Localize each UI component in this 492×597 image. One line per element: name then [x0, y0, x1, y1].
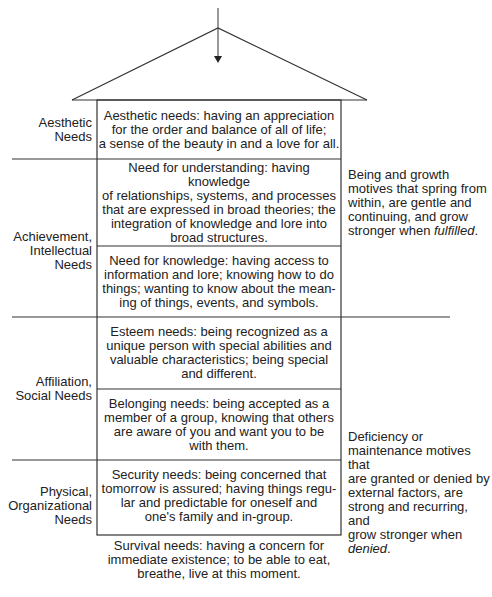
text-line: one's family and in-group.: [102, 510, 337, 524]
text-line: integration of knowledge and lore into: [97, 217, 341, 231]
need-survival: Survival needs: having a concern forimme…: [97, 532, 341, 587]
text-line: a sense of the beauty in and a love for …: [99, 137, 340, 151]
text-line: grow stronger when: [348, 528, 492, 542]
label-line: Organizational: [8, 499, 92, 513]
text-line: member of a group, knowing that others: [104, 411, 334, 425]
punct: .: [387, 541, 391, 556]
need-understanding: Need for understanding: having knowledge…: [97, 159, 341, 246]
text-line: Security needs: being concerned that: [102, 468, 337, 482]
down-arrow-icon: [214, 56, 222, 63]
text-line: within, are gentle and: [348, 196, 492, 210]
text-line: ing of things, events, and symbols.: [102, 296, 335, 310]
punct: .: [474, 223, 478, 238]
group-label-aesthetic: Aesthetic Needs: [39, 116, 92, 144]
text-line: Survival needs: having a concern for: [108, 539, 331, 553]
label-line: Needs: [13, 258, 92, 272]
label-line: Aesthetic: [39, 116, 92, 130]
need-belonging: Belonging needs: being accepted as amemb…: [97, 389, 341, 460]
need-security: Security needs: being concerned thattomo…: [97, 460, 341, 532]
emphasis-denied: denied: [348, 541, 387, 556]
text-line: Need for understanding: having knowledge: [97, 161, 341, 189]
text-line: lar and predictable for oneself and: [102, 496, 337, 510]
text-line: external factors, are: [348, 486, 492, 500]
label-line: Physical,: [8, 485, 92, 499]
need-knowledge: Need for knowledge: having access toinfo…: [97, 246, 341, 317]
need-esteem: Esteem needs: being recognized as auniqu…: [97, 317, 341, 389]
text-line: with them.: [104, 439, 334, 453]
text-line: Belonging needs: being accepted as a: [104, 397, 334, 411]
label-line: Achievement,: [13, 230, 92, 244]
growth-motives-note: Being and growth motives that spring fro…: [348, 168, 492, 238]
text-line: continuing, and grow: [348, 210, 492, 224]
text-line: Deficiency or: [348, 430, 492, 444]
label-line: Needs: [8, 513, 92, 527]
group-label-physical: Physical, Organizational Needs: [8, 485, 92, 527]
group-label-affiliation: Affiliation, Social Needs: [15, 375, 92, 403]
text-line: Aesthetic needs: having an appreciation: [99, 109, 340, 123]
text-line: stronger when: [348, 223, 434, 238]
text-line: broad structures.: [97, 231, 341, 245]
label-line: Social Needs: [15, 389, 92, 403]
text-line: are granted or denied by: [348, 472, 492, 486]
roof: [72, 28, 367, 100]
need-aesthetic: Aesthetic needs: having an appreciationf…: [97, 100, 341, 159]
emphasis-fulfilled: fulfilled: [434, 223, 474, 238]
text-line: tomorrow is assured; having things regu-: [102, 482, 337, 496]
text-line: are aware of you and want you to be: [104, 425, 334, 439]
text-line: things; wanting to know about the mean-: [102, 282, 335, 296]
text-line: of relationships, systems, and processes: [97, 189, 341, 203]
text-line: information and lore; knowing how to do: [102, 268, 335, 282]
label-line: Affiliation,: [15, 375, 92, 389]
deficiency-motives-note: Deficiency or maintenance motives that a…: [348, 430, 492, 556]
text-line: maintenance motives that: [348, 444, 492, 472]
text-line: and different.: [106, 367, 331, 381]
text-line: motives that spring from: [348, 182, 492, 196]
text-line: unique person with special abilities and: [106, 339, 331, 353]
text-line: Being and growth: [348, 168, 492, 182]
text-line: valuable characteristics; being special: [106, 353, 331, 367]
label-line: Intellectual: [13, 244, 92, 258]
text-line: for the order and balance of all of life…: [99, 123, 340, 137]
text-line: that are expressed in broad theories; th…: [97, 203, 341, 217]
text-line: strong and recurring, and: [348, 500, 492, 528]
label-line: Needs: [39, 130, 92, 144]
text-line: immediate existence; to be able to eat,: [108, 553, 331, 567]
text-line: Need for knowledge: having access to: [102, 254, 335, 268]
group-label-achievement: Achievement, Intellectual Needs: [13, 230, 92, 272]
text-line: Esteem needs: being recognized as a: [106, 325, 331, 339]
text-line: breathe, live at this moment.: [108, 567, 331, 581]
